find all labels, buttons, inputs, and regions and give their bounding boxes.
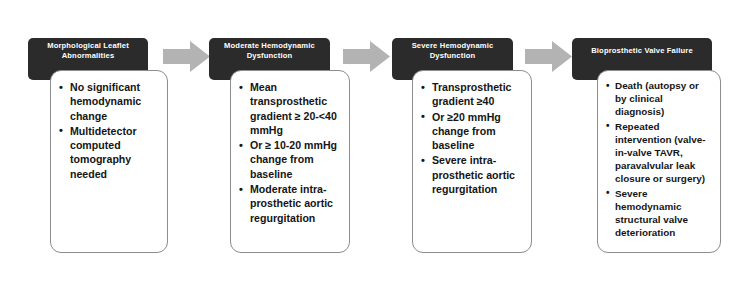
flowchart-canvas: Morphological Leaflet Abnormalities No s…	[0, 0, 738, 281]
list-item: Or ≥20 mmHg change from baseline	[421, 110, 523, 153]
stage-body-moderate-hemodynamic-dysfunction: Mean transprosthetic gradient ≥ 20-<40 m…	[230, 70, 350, 253]
list-item: Mean transprosthetic gradient ≥ 20-<40 m…	[239, 80, 341, 137]
right-block-arrow-icon	[343, 40, 391, 73]
right-block-arrow-icon	[163, 40, 211, 73]
bullet-list: No significant hemodynamic change Multid…	[51, 71, 167, 181]
bullet-list: Transprosthetic gradient ≥40 Or ≥20 mmHg…	[413, 71, 531, 196]
stage-header-label: Bioprosthetic Valve Failure	[578, 46, 706, 65]
list-item: Multidetector computed tomography needed	[59, 124, 159, 181]
list-item: Repeated intervention (valve-in-valve TA…	[606, 120, 713, 186]
list-item: No significant hemodynamic change	[59, 80, 159, 123]
stage-body-bioprosthetic-valve-failure: Death (autopsy or by clinical diagnosis)…	[597, 70, 721, 253]
list-item: Severe hemodynamic structural valve dete…	[606, 187, 713, 240]
list-item: Or ≥ 10-20 mmHg change from baseline	[239, 138, 341, 181]
stage-header-label: Moderate Hemodynamic Dysfunction	[215, 41, 324, 70]
stage-header-label: Severe Hemodynamic Dysfunction	[398, 41, 507, 70]
stage-body-morphological-leaflet-abnormalities: No significant hemodynamic change Multid…	[50, 70, 168, 253]
list-item: Death (autopsy or by clinical diagnosis)	[606, 79, 713, 119]
stage-body-severe-hemodynamic-dysfunction: Transprosthetic gradient ≥40 Or ≥20 mmHg…	[412, 70, 532, 253]
list-item: Severe intra-prosthetic aortic regurgita…	[421, 153, 523, 196]
list-item: Transprosthetic gradient ≥40	[421, 80, 523, 109]
list-item: Moderate intra-prosthetic aortic regurgi…	[239, 182, 341, 225]
right-block-arrow-icon	[525, 40, 573, 73]
bullet-list: Death (autopsy or by clinical diagnosis)…	[598, 71, 720, 239]
bullet-list: Mean transprosthetic gradient ≥ 20-<40 m…	[231, 71, 349, 225]
stage-header-label: Morphological Leaflet Abnormalities	[34, 41, 142, 70]
